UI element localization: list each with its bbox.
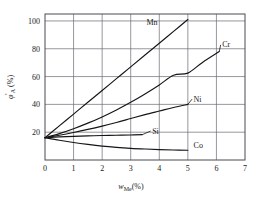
series-label-si: Si [152, 127, 159, 136]
series-label-cr: Cr [222, 40, 230, 49]
y-axis-title: φ'A (%) [4, 75, 16, 100]
y-tick-label: 60 [32, 73, 40, 82]
series-label-ni: Ni [194, 95, 203, 104]
x-tick-label: 4 [157, 164, 161, 173]
series-label-co: Co [194, 141, 203, 150]
svg-text:φ'A (%): φ'A (%) [4, 75, 16, 100]
y-tick-label: 80 [32, 45, 40, 54]
x-tick-label: 0 [43, 164, 47, 173]
x-axis-title: wMe(%) [118, 182, 144, 192]
chart-container: 01234567 20406080100 MnCrNiSiCo wMe(%) φ… [0, 0, 263, 200]
y-tick-label: 100 [28, 17, 40, 26]
x-tick-label: 2 [100, 164, 104, 173]
x-tick-label: 5 [186, 164, 190, 173]
x-tick-label: 6 [214, 164, 218, 173]
x-tick-label: 3 [129, 164, 133, 173]
series-label-mn: Mn [146, 18, 157, 27]
line-chart: 01234567 20406080100 MnCrNiSiCo wMe(%) φ… [0, 0, 263, 200]
x-tick-label: 1 [72, 164, 76, 173]
y-tick-label: 20 [32, 128, 40, 137]
x-tick-label: 7 [243, 164, 247, 173]
y-tick-label: 40 [32, 100, 40, 109]
svg-text:wMe(%): wMe(%) [118, 182, 144, 192]
